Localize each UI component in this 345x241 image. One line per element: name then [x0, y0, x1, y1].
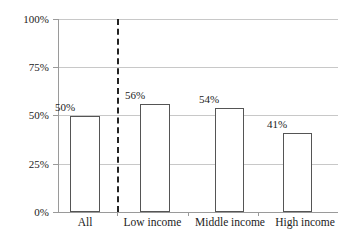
y-label-75: 75%: [4, 62, 49, 73]
bar-all: [70, 116, 100, 213]
bar-high-income: [283, 133, 312, 212]
y-label-100: 100%: [4, 14, 49, 25]
gridline-100: [58, 19, 338, 20]
x-label-high-income: High income: [267, 216, 343, 228]
bar-value-middle-income: 54%: [189, 94, 229, 105]
plot-area: [58, 19, 338, 212]
y-tick-50: [53, 115, 58, 116]
bar-chart: 100% 75% 50% 25% 0% 50% 56% 54% 41% All …: [0, 0, 345, 241]
gridline-50: [58, 115, 338, 116]
category-divider-dashed-line: [117, 19, 119, 212]
x-tick-divider: [117, 212, 118, 216]
gridline-75: [58, 67, 338, 68]
y-tick-75: [53, 67, 58, 68]
x-label-all: All: [60, 216, 110, 228]
bar-value-high-income: 41%: [257, 119, 297, 130]
y-tick-25: [53, 164, 58, 165]
gridline-baseline: [58, 212, 338, 213]
bar-low-income: [140, 104, 170, 212]
y-axis-line: [58, 19, 59, 213]
y-label-0: 0%: [4, 207, 49, 218]
y-tick-0: [53, 212, 58, 213]
y-label-25: 25%: [4, 159, 49, 170]
y-label-50: 50%: [4, 110, 49, 121]
y-tick-100: [53, 19, 58, 20]
bar-middle-income: [215, 108, 244, 212]
x-label-middle-income: Middle income: [189, 216, 271, 228]
bar-value-all: 50%: [45, 102, 85, 113]
bar-value-low-income: 56%: [115, 90, 155, 101]
x-label-low-income: Low income: [120, 216, 185, 228]
